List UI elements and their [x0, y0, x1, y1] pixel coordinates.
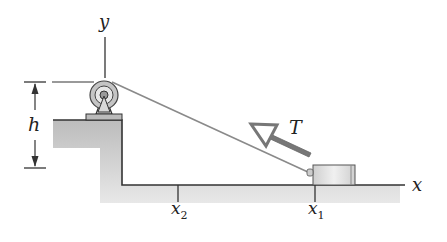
x-axis-label: x [412, 174, 422, 195]
block-hook [307, 169, 313, 176]
cable [112, 82, 310, 173]
tension-label: T [289, 116, 303, 138]
diagram-canvas: y x h x2 x1 T [0, 0, 447, 242]
height-label: h [28, 113, 40, 135]
arrowhead-down-icon [32, 156, 39, 167]
ground-fill [53, 120, 400, 203]
arrowhead-up-icon [32, 83, 39, 94]
block-body [313, 165, 355, 185]
tension-arrowhead-icon [251, 124, 277, 146]
pulley [86, 81, 122, 120]
ground [53, 120, 405, 203]
block [307, 165, 355, 185]
pulley-base [86, 114, 122, 120]
y-axis-label: y [98, 11, 110, 32]
